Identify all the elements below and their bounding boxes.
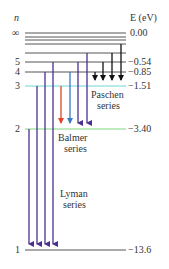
energy-label-3: −1.51: [128, 80, 151, 91]
n-label-2: 2: [15, 123, 20, 134]
energy-labels: 0.00 −0.54 −0.85 −1.51 −3.40 −13.6: [128, 27, 151, 255]
energy-axis-label: E (eV): [130, 12, 157, 24]
n-axis-label: n: [14, 12, 19, 23]
n-label-4: 4: [15, 66, 20, 77]
n-label-3: 3: [15, 80, 20, 91]
energy-label-2: −3.40: [128, 123, 151, 134]
energy-label-4: −0.85: [128, 66, 151, 77]
balmer-label-line1: Balmer: [58, 132, 88, 143]
series-labels: Paschen series Balmer series Lyman serie…: [58, 89, 124, 210]
n-label-1: 1: [15, 244, 20, 255]
energy-label-1: −13.6: [128, 244, 151, 255]
lyman-label-line1: Lyman: [60, 188, 88, 199]
paschen-label-line1: Paschen: [91, 89, 124, 100]
energy-label-infinity: 0.00: [130, 27, 148, 38]
balmer-label-line2: series: [64, 143, 87, 154]
lyman-arrows: [29, 62, 53, 244]
lyman-label-line2: series: [63, 199, 86, 210]
balmer-arrows: [61, 53, 87, 123]
paschen-label-line2: series: [97, 100, 120, 111]
n-labels: ∞ 5 4 3 2 1: [12, 27, 20, 255]
energy-level-diagram: n E (eV) ∞ 5 4 3 2 1 0.00 −0.54 −0.85 −1…: [0, 0, 169, 269]
n-label-infinity: ∞: [12, 27, 19, 38]
